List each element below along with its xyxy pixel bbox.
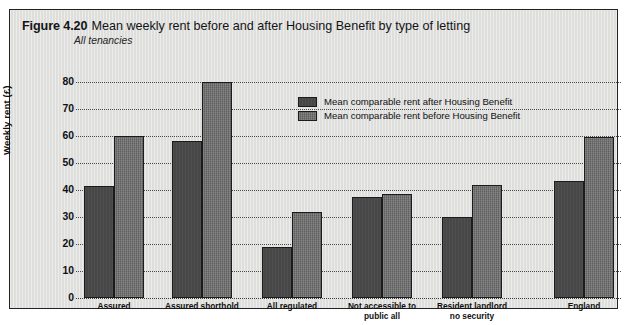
bar — [554, 181, 584, 298]
x-tick-label: Resident landlordno security — [414, 301, 530, 321]
x-tick-label-line: England — [526, 301, 627, 311]
bar — [292, 212, 322, 298]
bar — [352, 197, 382, 298]
y-axis-title: Weekly rent (£) — [1, 85, 12, 155]
figure-subtitle: All tenancies — [74, 35, 602, 47]
bar-group — [172, 73, 232, 298]
y-tick-label-60: 60 — [40, 131, 74, 141]
bar — [442, 217, 472, 298]
page-title: Mean weekly rent before and after Housin… — [91, 19, 470, 33]
gridline-0 — [76, 298, 621, 299]
figure-number: Figure 4.20 — [22, 19, 87, 33]
y-tick-label-40: 40 — [40, 185, 74, 195]
x-axis: AssuredAssured shortholdAll regulatedNot… — [76, 301, 621, 325]
bar — [172, 141, 202, 298]
y-tick-label-30: 30 — [40, 212, 74, 222]
bar — [114, 136, 144, 298]
legend-label: Mean comparable rent before Housing Bene… — [324, 110, 520, 121]
y-axis: 01020304050607080 — [40, 73, 74, 298]
bar — [382, 194, 412, 298]
y-tick-label-20: 20 — [40, 239, 74, 249]
chart-legend: Mean comparable rent after Housing Benef… — [298, 95, 548, 123]
bar — [262, 247, 292, 298]
figure-title-block: Figure 4.20Mean weekly rent before and a… — [22, 19, 602, 47]
legend-item: Mean comparable rent before Housing Bene… — [298, 109, 548, 122]
y-tick-label-70: 70 — [40, 104, 74, 114]
legend-swatch-before — [298, 111, 317, 121]
bar — [472, 185, 502, 298]
figure-title-line: Figure 4.20Mean weekly rent before and a… — [22, 19, 602, 33]
y-tick-label-80: 80 — [40, 77, 74, 87]
bar-group — [554, 73, 614, 298]
bar — [84, 186, 114, 298]
legend-label: Mean comparable rent after Housing Benef… — [324, 96, 512, 107]
bar-group — [84, 73, 144, 298]
y-tick-label-10: 10 — [40, 266, 74, 276]
x-tick-label: England — [526, 301, 627, 311]
y-tick-label-50: 50 — [40, 158, 74, 168]
bar — [584, 137, 614, 298]
legend-item: Mean comparable rent after Housing Benef… — [298, 95, 548, 108]
x-tick-label-line: Resident landlord — [414, 301, 530, 311]
bar — [202, 82, 232, 298]
legend-swatch-after — [298, 97, 317, 107]
x-tick-label-line: no security — [414, 311, 530, 321]
figure-panel: Figure 4.20Mean weekly rent before and a… — [9, 9, 618, 309]
